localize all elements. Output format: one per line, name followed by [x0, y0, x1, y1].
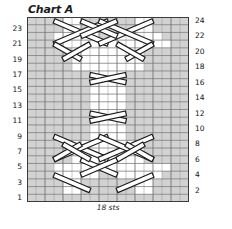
row-number: 17 — [1, 71, 25, 79]
row-number: 3 — [1, 179, 25, 187]
row-number: 5 — [1, 163, 25, 171]
row-number: 8 — [191, 140, 215, 148]
row-number: 1 — [1, 194, 25, 202]
row-number: 9 — [1, 133, 25, 141]
row-number: 13 — [1, 102, 25, 110]
row-number: 18 — [191, 63, 215, 71]
row-number: 4 — [191, 171, 215, 179]
knitting-chart-figure: Chart A 2321191715131197531 242220181614… — [0, 0, 232, 229]
row-number: 24 — [191, 17, 215, 25]
row-number: 15 — [1, 86, 25, 94]
row-number: 21 — [1, 40, 25, 48]
row-number: 2 — [191, 187, 215, 195]
chart-caption: 18 sts — [27, 203, 189, 212]
row-numbers-left: 2321191715131197531 — [1, 17, 25, 202]
row-number: 12 — [191, 110, 215, 118]
row-number: 6 — [191, 156, 215, 164]
row-numbers-right: 24222018161412108642 — [191, 17, 215, 202]
row-number: 22 — [191, 32, 215, 40]
row-number: 20 — [191, 48, 215, 56]
row-number: 14 — [191, 94, 215, 102]
row-number: 23 — [1, 25, 25, 33]
row-number: 7 — [1, 148, 25, 156]
chart-title: Chart A — [28, 3, 73, 16]
row-number: 16 — [191, 79, 215, 87]
row-number: 19 — [1, 56, 25, 64]
row-number: 11 — [1, 117, 25, 125]
chart-grid — [27, 17, 189, 202]
chart-grid-svg — [27, 17, 189, 202]
row-number: 10 — [191, 125, 215, 133]
